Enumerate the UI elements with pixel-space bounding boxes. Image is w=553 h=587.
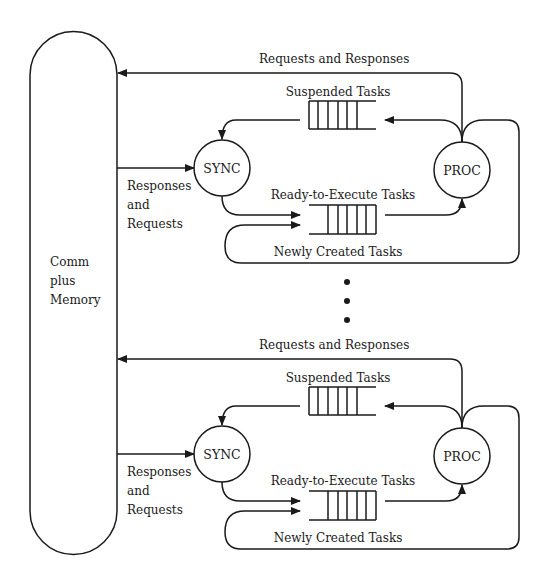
responses-label-line-1: Responses (127, 465, 191, 479)
suspended-tasks-queue (309, 101, 376, 129)
new-tasks-label: Newly Created Tasks (274, 245, 403, 259)
requests-responses-arrow (118, 359, 462, 428)
responses-label-line-2: and (127, 198, 150, 212)
ready-tasks-label: Ready-to-Execute Tasks (271, 474, 416, 488)
sync-label: SYNC (203, 447, 240, 462)
suspended-tasks-label: Suspended Tasks (286, 85, 391, 99)
suspended-tasks-queue (309, 387, 376, 415)
requests-responses-label: Requests and Responses (259, 52, 409, 66)
ready-tasks-queue (309, 205, 376, 234)
proc-label: PROC (443, 449, 481, 464)
suspended-tasks-label: Suspended Tasks (286, 371, 391, 385)
architecture-diagram: Comm plus Memory Requests and Responses … (0, 0, 553, 587)
memory-label-line-1: Comm (50, 255, 90, 269)
ellipsis-dots (344, 279, 350, 323)
responses-label-line-3: Requests (127, 217, 183, 231)
responses-label-line-3: Requests (127, 503, 183, 517)
proc-to-suspended-arrow (385, 406, 462, 428)
processor-unit-1: Requests and Responses Responses and Req… (117, 52, 519, 263)
responses-label-line-1: Responses (127, 179, 191, 193)
new-tasks-label: Newly Created Tasks (274, 531, 403, 545)
requests-responses-label: Requests and Responses (259, 338, 409, 352)
requests-responses-arrow (118, 73, 462, 142)
processor-unit-2: Requests and Responses Responses and Req… (117, 338, 519, 549)
suspended-to-sync-arrow (222, 120, 300, 139)
responses-label-line-2: and (127, 484, 150, 498)
proc-label: PROC (443, 163, 481, 178)
ready-tasks-queue (309, 491, 376, 520)
memory-label-line-2: plus (50, 274, 75, 288)
sync-label: SYNC (203, 161, 240, 176)
suspended-to-sync-arrow (222, 406, 300, 425)
memory-label-line-3: Memory (50, 293, 101, 307)
comm-memory-node: Comm plus Memory (30, 32, 117, 555)
ready-tasks-label: Ready-to-Execute Tasks (271, 188, 416, 202)
proc-to-suspended-arrow (385, 120, 462, 142)
